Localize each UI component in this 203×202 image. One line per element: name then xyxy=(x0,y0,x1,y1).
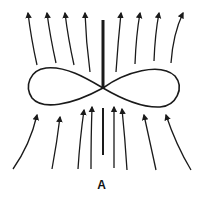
arrow-icon xyxy=(28,13,37,65)
arrow-icon xyxy=(78,110,84,169)
arrow-icon xyxy=(154,13,159,61)
arrow-icon xyxy=(122,109,127,170)
arrow-icon xyxy=(91,107,92,169)
arrow-icon xyxy=(166,115,191,170)
arrow-icon xyxy=(116,13,121,72)
arrow-icon xyxy=(171,13,183,63)
arrow-icon xyxy=(13,115,37,169)
arrow-icon xyxy=(135,13,140,64)
top-arrows xyxy=(28,13,183,72)
arrow-icon xyxy=(144,115,156,170)
figure-label: A xyxy=(0,178,203,192)
arrow-icon xyxy=(47,13,56,63)
field-diagram xyxy=(0,0,203,202)
arrow-icon xyxy=(52,117,60,169)
arrow-icon xyxy=(85,13,90,72)
arrow-icon xyxy=(65,13,74,65)
